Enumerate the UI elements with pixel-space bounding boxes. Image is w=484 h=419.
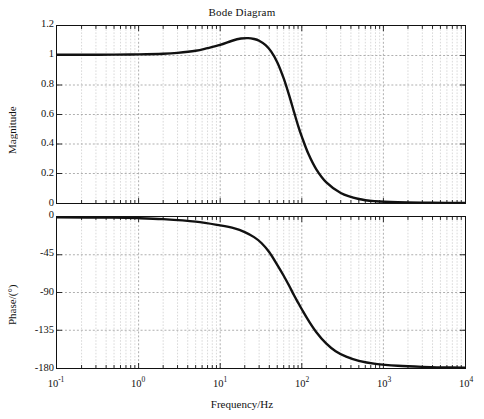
frequency-tick-label: 104 (446, 376, 484, 389)
magnitude-ytick-label: 1.2 (8, 19, 54, 30)
bode-diagram-figure: Bode Diagram Magnitude Phase/(°) 00.20.4… (0, 0, 484, 419)
phase-ytick-label: -90 (8, 287, 54, 298)
phase-ytick-label: -135 (8, 325, 54, 336)
magnitude-ytick-label: 0.6 (8, 109, 54, 120)
magnitude-ytick-label: 0 (8, 198, 54, 209)
magnitude-ytick-label: 0.8 (8, 79, 54, 90)
phase-plot-area (56, 216, 466, 369)
phase-ytick-label: 0 (8, 210, 54, 221)
magnitude-ytick-label: 0.2 (8, 168, 54, 179)
chart-title: Bode Diagram (0, 6, 484, 18)
magnitude-plot-area (56, 25, 466, 204)
magnitude-plot-svg (57, 26, 465, 203)
frequency-tick-label: 103 (364, 376, 404, 389)
phase-plot-svg (57, 217, 465, 368)
frequency-tick-label: 101 (200, 376, 240, 389)
y-tick-labels: 00.20.40.60.811.2-180-135-90-450 (0, 0, 54, 419)
magnitude-ytick-label: 0.4 (8, 138, 54, 149)
frequency-tick-label: 10-1 (36, 376, 76, 389)
phase-ytick-label: -180 (8, 363, 54, 374)
frequency-tick-label: 102 (282, 376, 322, 389)
frequency-axis-label: Frequency/Hz (0, 398, 484, 410)
phase-ytick-label: -45 (8, 248, 54, 259)
magnitude-ytick-label: 1 (8, 49, 54, 60)
x-tick-labels: 10-1100101102103104 (0, 374, 484, 394)
frequency-tick-label: 100 (118, 376, 158, 389)
